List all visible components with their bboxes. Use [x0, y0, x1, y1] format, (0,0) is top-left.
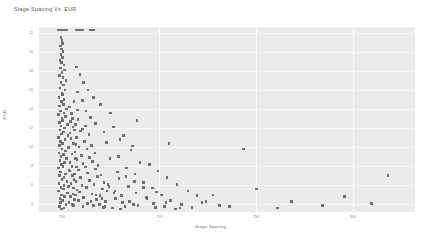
- data-point: [79, 176, 82, 179]
- data-point: [130, 149, 133, 152]
- data-point: [58, 74, 61, 77]
- data-point: [180, 203, 183, 206]
- data-point: [103, 131, 106, 134]
- data-point: [276, 207, 279, 210]
- plot-area: [39, 27, 415, 212]
- points-layer: [39, 27, 415, 212]
- data-point: [61, 119, 64, 122]
- y-tick-label: 18: [29, 69, 33, 73]
- data-point: [61, 178, 64, 181]
- y-axis-ticks: 46810121416182022: [0, 27, 37, 212]
- data-point: [84, 125, 87, 128]
- data-point: [61, 142, 64, 145]
- data-point: [137, 204, 140, 207]
- data-point: [125, 175, 128, 178]
- data-point: [64, 115, 67, 118]
- data-point: [77, 199, 80, 202]
- data-point: [63, 184, 66, 187]
- data-point: [77, 169, 80, 172]
- data-point: [73, 178, 76, 181]
- data-point: [131, 145, 134, 148]
- data-point: [84, 166, 87, 169]
- data-point: [321, 204, 324, 207]
- data-point: [73, 198, 76, 201]
- data-point: [75, 136, 78, 139]
- data-point: [65, 29, 68, 32]
- data-point: [74, 151, 77, 154]
- data-point: [96, 175, 99, 178]
- data-point: [59, 171, 62, 174]
- data-point: [71, 165, 74, 168]
- data-point: [87, 89, 90, 92]
- y-tick-label: 8: [31, 164, 33, 168]
- y-tick-label: 14: [29, 107, 33, 111]
- scatter-chart: Stage Spacing Vs. EUR EUR 46810121416182…: [0, 0, 421, 244]
- y-tick-label: 16: [29, 88, 33, 92]
- data-point: [93, 183, 96, 186]
- data-point: [58, 182, 61, 185]
- data-point: [82, 162, 85, 165]
- data-point: [76, 189, 79, 192]
- data-point: [69, 132, 72, 135]
- y-tick-label: 12: [29, 126, 33, 130]
- data-point: [61, 148, 64, 151]
- data-point: [101, 197, 104, 200]
- data-point: [73, 100, 76, 103]
- data-point: [71, 117, 74, 120]
- data-point: [142, 186, 145, 189]
- x-tick-label: 300: [350, 215, 356, 219]
- data-point: [58, 144, 61, 147]
- data-point: [90, 200, 93, 203]
- data-point: [63, 112, 66, 115]
- data-point: [122, 134, 125, 137]
- data-point: [127, 185, 130, 188]
- data-point: [72, 204, 75, 207]
- data-point: [148, 163, 151, 166]
- data-point: [154, 206, 157, 209]
- data-point: [124, 205, 127, 208]
- data-point: [68, 106, 71, 109]
- data-point: [163, 205, 166, 208]
- data-point: [104, 200, 107, 203]
- x-tick-label: 200: [156, 215, 162, 219]
- data-point: [121, 201, 124, 204]
- data-point: [66, 123, 69, 126]
- data-point: [70, 182, 73, 185]
- data-point: [94, 168, 97, 171]
- data-point: [118, 177, 121, 180]
- data-point: [114, 190, 117, 193]
- data-point: [74, 123, 77, 126]
- data-point: [83, 140, 86, 143]
- data-point: [81, 128, 84, 131]
- data-point: [82, 205, 85, 208]
- data-point: [255, 188, 258, 191]
- x-tick-label: 250: [253, 215, 259, 219]
- data-point: [82, 29, 85, 32]
- data-point: [91, 193, 94, 196]
- data-point: [58, 96, 61, 99]
- x-axis-label: Stage Spacing: [0, 224, 421, 229]
- data-point: [59, 67, 62, 70]
- data-point: [91, 160, 94, 163]
- data-point: [69, 161, 72, 164]
- data-point: [103, 181, 106, 184]
- data-point: [88, 179, 91, 182]
- data-point: [82, 81, 85, 84]
- data-point: [86, 202, 89, 205]
- data-point: [62, 76, 65, 79]
- data-point: [59, 201, 62, 204]
- data-point: [85, 186, 88, 189]
- data-point: [61, 93, 64, 96]
- data-point: [78, 191, 81, 194]
- data-point: [201, 201, 204, 204]
- data-point: [142, 181, 145, 184]
- data-point: [61, 71, 64, 74]
- data-point: [63, 69, 66, 72]
- data-point: [290, 200, 293, 203]
- data-point: [59, 110, 62, 113]
- data-point: [152, 202, 155, 205]
- data-point: [155, 191, 158, 194]
- data-point: [89, 116, 92, 119]
- data-point: [134, 173, 137, 176]
- y-tick-label: 20: [29, 50, 33, 54]
